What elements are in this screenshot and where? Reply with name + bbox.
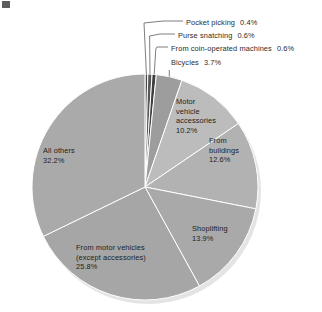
leader-line-from-coin-operated-machines [154, 47, 168, 74]
callout-text-purse-snatching: Purse snatching [178, 31, 233, 40]
callout-value-bicycles: 3.7% [204, 58, 221, 67]
callout-label-purse-snatching: Purse snatching0.6% [178, 31, 255, 40]
slice-label-all-others: All others 32.2% [43, 146, 75, 165]
callout-value-purse-snatching: 0.6% [238, 31, 255, 40]
leader-line-purse-snatching [150, 34, 175, 74]
callout-label-pocket-picking: Pocket picking0.4% [186, 18, 257, 27]
slice-label-from-buildings: From buildings 12.6% [209, 136, 239, 165]
slice-label-motor-vehicle-accessories: Motor vehicle accessories 10.2% [176, 97, 216, 135]
pie-chart-figure: Pocket picking0.4% Purse snatching0.6% F… [0, 0, 322, 312]
slice-label-from-motor-vehicles: From motor vehicles (except accessories)… [76, 243, 146, 272]
callout-label-bicycles: Bicycles3.7% [171, 58, 221, 67]
callout-value-coin-operated-machines: 0.6% [277, 44, 294, 53]
pie-slices [32, 74, 261, 304]
callout-text-coin-operated-machines: From coin-operated machines [171, 44, 272, 53]
callout-text-bicycles: Bicycles [171, 58, 199, 67]
callout-value-pocket-picking: 0.4% [240, 18, 257, 27]
callout-label-coin-operated-machines: From coin-operated machines0.6% [171, 44, 294, 53]
slice-label-shoplifting: Shoplifting 13.9% [192, 224, 228, 243]
callout-text-pocket-picking: Pocket picking [186, 18, 235, 27]
